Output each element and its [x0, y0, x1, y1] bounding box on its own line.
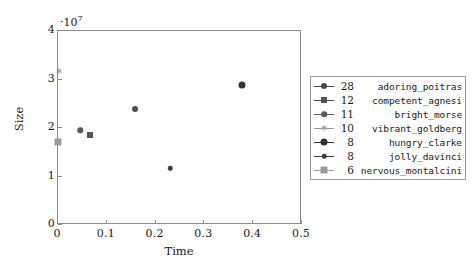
legend-count: 8 [334, 136, 357, 148]
y-axis-tick-label: 1 [25, 169, 55, 182]
legend-row[interactable]: 28adoring_poitras [314, 79, 462, 93]
y-axis-tick-label: 4 [25, 23, 55, 36]
x-axis-tick [155, 220, 156, 224]
y-axis-exponent-power: 7 [78, 14, 83, 23]
y-axis-tick-label: 0 [25, 217, 55, 230]
legend-row[interactable]: 8hungry_clarke [314, 135, 462, 149]
x-axis-tick [301, 220, 302, 224]
legend-row[interactable]: 6nervous_montalcini [314, 163, 462, 177]
legend-row[interactable]: 8jolly_davinci [314, 149, 462, 163]
legend-marker-star-icon: ✶ [319, 123, 329, 134]
legend-marker-circle-icon [321, 83, 327, 89]
y-axis-tick-label: 2 [25, 120, 55, 133]
legend-marker-circle-icon [321, 111, 327, 117]
legend-marker-circle-icon [322, 154, 327, 159]
x-axis-tick-label: 0.1 [86, 227, 126, 240]
legend-marker-square-icon [321, 97, 327, 103]
legend-marker-sample: ✶ [314, 121, 334, 135]
legend-series-name: jolly_davinci [357, 151, 462, 162]
scatter-plot-figure: ·107 ✶ 00.10.20.30.40.501234 Time Size 2… [0, 0, 472, 273]
legend-series-name: vibrant_goldberg [357, 123, 462, 134]
x-axis-tick-label: 0.4 [232, 227, 272, 240]
legend-marker-sample [314, 93, 334, 107]
x-axis-tick [252, 220, 253, 224]
x-axis-title: Time [57, 244, 301, 258]
y-axis-tick-label: 3 [25, 72, 55, 85]
legend-marker-square-icon [321, 167, 328, 174]
x-axis-tick-label: 0.5 [281, 227, 321, 240]
legend-count: 28 [334, 80, 357, 92]
y-axis-tick [58, 224, 62, 225]
y-axis-title: Size [12, 79, 26, 159]
legend-count: 8 [334, 150, 357, 162]
y-axis-tick [58, 79, 62, 80]
legend-row[interactable]: ✶10vibrant_goldberg [314, 121, 462, 135]
legend-marker-circle-icon [321, 139, 328, 146]
legend-count: 11 [334, 108, 357, 120]
y-axis-exponent-label: ·107 [60, 14, 83, 29]
y-axis-tick [58, 176, 62, 177]
legend-row[interactable]: 12competent_agnesi [314, 93, 462, 107]
legend-marker-sample [314, 149, 334, 163]
legend-marker-sample [314, 79, 334, 93]
legend-marker-sample [314, 135, 334, 149]
legend-marker-sample [314, 163, 334, 177]
x-axis-tick-label: 0.2 [135, 227, 175, 240]
legend-marker-sample [314, 107, 334, 121]
legend-series-name: competent_agnesi [357, 95, 462, 106]
y-axis-tick [58, 30, 62, 31]
y-axis-exponent-base: ·10 [60, 16, 78, 29]
legend-box: 28adoring_poitras12competent_agnesi11bri… [310, 76, 466, 180]
legend-row[interactable]: 11bright_morse [314, 107, 462, 121]
legend-series-name: adoring_poitras [357, 81, 462, 92]
legend-count: 6 [334, 164, 357, 176]
legend-count: 10 [334, 122, 357, 134]
plot-area-frame [57, 30, 301, 224]
x-axis-tick [203, 220, 204, 224]
legend-series-name: bright_morse [357, 109, 462, 120]
y-axis-tick [58, 127, 62, 128]
legend-count: 12 [334, 94, 357, 106]
x-axis-tick-label: 0.3 [183, 227, 223, 240]
x-axis-tick [106, 220, 107, 224]
legend-series-name: hungry_clarke [357, 137, 462, 148]
legend-series-name: nervous_montalcini [357, 165, 462, 176]
